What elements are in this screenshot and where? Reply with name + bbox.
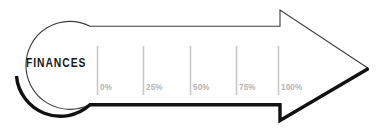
scale-label-25: 25% bbox=[146, 82, 163, 92]
scale-label-50: 50% bbox=[193, 82, 210, 92]
diagram-canvas: FINANCES 0% 25% 50% 75% 100% bbox=[0, 0, 385, 131]
category-label-finances: FINANCES bbox=[26, 56, 81, 70]
scale-label-100: 100% bbox=[281, 82, 302, 92]
scale-label-75: 75% bbox=[239, 82, 256, 92]
scale-label-0: 0% bbox=[100, 82, 112, 92]
